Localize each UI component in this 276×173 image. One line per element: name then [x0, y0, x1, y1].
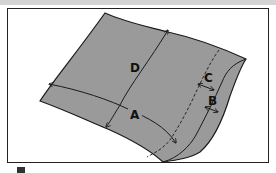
label-a: A: [130, 108, 140, 122]
label-d: D: [130, 61, 140, 75]
fabric-measurement-diagram: D A C B: [0, 0, 276, 173]
bottom-edge-mark: [17, 167, 25, 173]
label-c: C: [204, 71, 213, 85]
label-b: B: [208, 94, 217, 108]
fabric-shape: [40, 13, 246, 162]
